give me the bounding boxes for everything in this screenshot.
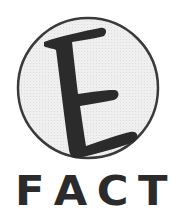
wordmark-letter-f: F bbox=[15, 171, 45, 211]
wordmark-fact: F A C T bbox=[0, 168, 180, 214]
wordmark-letter-c: C bbox=[96, 171, 128, 211]
e-emblem-icon bbox=[0, 0, 180, 170]
e-fact-logo: F A C T bbox=[0, 0, 180, 218]
wordmark-letter-a: A bbox=[54, 171, 87, 211]
wordmark-letter-t: T bbox=[138, 171, 167, 211]
